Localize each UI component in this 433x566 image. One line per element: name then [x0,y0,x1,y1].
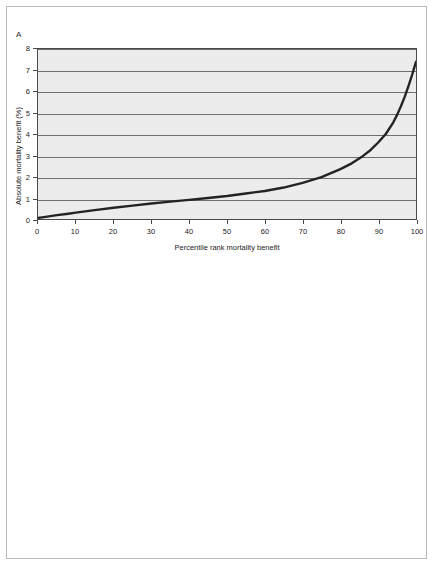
x-tick-mark [227,220,228,224]
x-tick-label: 60 [261,227,269,236]
y-tick-label: 6 [13,87,30,96]
x-tick-label: 70 [299,227,307,236]
panel-b: B 02468101214 1234 tPAStreptokinase Quar… [0,283,433,566]
x-tick-mark [37,220,38,224]
y-axis-line [37,48,38,220]
panel-a: A 012345678 0102030405060708090100 Perce… [0,0,433,283]
x-tick-label: 50 [223,227,231,236]
panel-a-y-axis-title: Absolute mortality benefit (%) [14,107,23,205]
panel-a-label: A [16,30,22,39]
x-tick-label: 20 [109,227,117,236]
x-tick-mark [151,220,152,224]
panel-a-plot-area [37,48,417,220]
x-tick-label: 10 [71,227,79,236]
x-tick-mark [379,220,380,224]
panel-a-x-axis-title: Percentile rank mortality benefit [174,243,279,252]
y-tick-label: 8 [13,44,30,53]
x-tick-label: 100 [411,227,424,236]
x-tick-mark [265,220,266,224]
panel-a-curve [38,49,416,219]
x-tick-mark [75,220,76,224]
x-tick-mark [113,220,114,224]
x-tick-label: 0 [35,227,39,236]
y-tick-label: 7 [13,65,30,74]
x-tick-label: 30 [147,227,155,236]
figure-root: A 012345678 0102030405060708090100 Perce… [0,0,433,566]
y-tick-label: 0 [13,216,30,225]
x-tick-mark [341,220,342,224]
x-tick-label: 40 [185,227,193,236]
x-tick-mark [417,220,418,224]
x-tick-mark [303,220,304,224]
x-tick-label: 90 [375,227,383,236]
x-tick-label: 80 [337,227,345,236]
x-tick-mark [189,220,190,224]
